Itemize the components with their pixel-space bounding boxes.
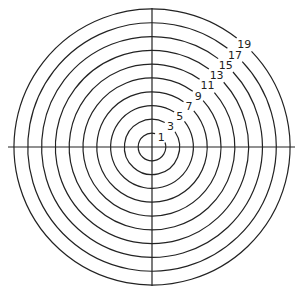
ring-label: 3 (167, 120, 174, 133)
ring-label: 5 (176, 110, 183, 123)
ring-label: 7 (185, 100, 192, 113)
ring-labels: 135791113151719 (158, 38, 252, 143)
axes (8, 8, 295, 286)
ring-label: 19 (237, 38, 251, 51)
ring-label: 1 (158, 131, 165, 144)
concentric-circle-diagram: 135791113151719 (0, 0, 299, 295)
